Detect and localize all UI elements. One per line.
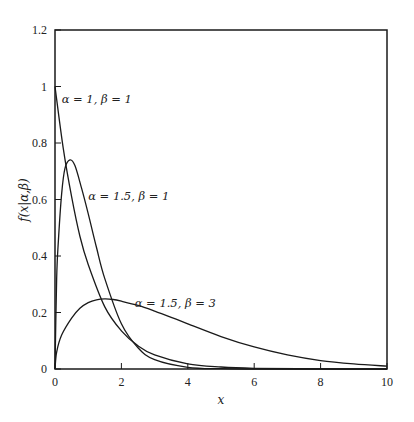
y-axis-label: f(x|α,β) [17,178,31,223]
y-tick-label: 0.4 [32,249,47,263]
curve-series-0 [55,87,387,370]
chart: 0246810 00.20.40.60.811.2 x f(x|α,β) α =… [0,0,414,422]
curve-annotation-0: α = 1, β = 1 [62,92,132,106]
curves-group [55,87,387,370]
y-axis-ticks: 00.20.40.60.811.2 [32,23,61,376]
x-tick-label: 2 [118,375,124,389]
curve-series-2 [55,299,387,369]
y-tick-label: 0 [41,362,47,376]
curve-annotation-1: α = 1.5, β = 1 [88,189,169,203]
x-tick-label: 10 [381,375,393,389]
y-tick-label: 0.8 [32,136,47,150]
curve-annotation-2: α = 1.5, β = 3 [135,296,216,310]
y-tick-label: 1.2 [32,23,47,37]
x-tick-label: 0 [52,375,58,389]
x-axis-label: x [218,393,225,407]
x-tick-label: 8 [318,375,324,389]
x-tick-label: 6 [251,375,257,389]
y-tick-label: 0.6 [32,193,47,207]
x-tick-label: 4 [185,375,191,389]
y-tick-label: 0.2 [32,306,47,320]
y-tick-label: 1 [41,80,47,94]
